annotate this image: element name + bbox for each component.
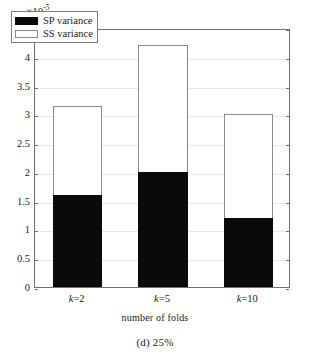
- figure-panel: ×10-5 variance 4.543.532.521.510.50 SP v…: [0, 0, 310, 356]
- axis-tick: [35, 260, 38, 261]
- axis-tick: [35, 174, 38, 175]
- legend-label-sp: SP variance: [43, 15, 92, 26]
- y-axis-tick-label: 3.5: [0, 82, 30, 92]
- y-axis-tick-label: 1: [0, 225, 30, 235]
- x-tick-variable: k: [69, 293, 74, 304]
- y-axis-title: variance: [0, 146, 1, 181]
- axis-tick: [35, 116, 38, 117]
- legend-swatch-sp-icon: [15, 17, 38, 25]
- bar-sp-variance: [53, 195, 102, 287]
- axis-tick: [286, 231, 289, 232]
- axis-tick: [286, 145, 289, 146]
- bar-sp-variance: [224, 218, 273, 287]
- axis-tick: [286, 30, 289, 31]
- bar-group: [138, 28, 187, 287]
- bar-sp-variance: [138, 172, 187, 287]
- x-axis-tick-label: k=5: [154, 293, 170, 304]
- axis-tick: [286, 260, 289, 261]
- legend-item-ss: SS variance: [15, 27, 93, 40]
- axis-tick: [286, 203, 289, 204]
- legend-swatch-ss-icon: [15, 30, 38, 38]
- axis-tick: [286, 174, 289, 175]
- axis-tick: [286, 88, 289, 89]
- y-axis-tick-label: 1.5: [0, 197, 30, 207]
- plot-area: [34, 29, 290, 288]
- axis-tick: [35, 59, 38, 60]
- axis-tick: [35, 145, 38, 146]
- axis-tick: [35, 231, 38, 232]
- axis-tick: [35, 203, 38, 204]
- axis-tick: [286, 59, 289, 60]
- legend-label-ss: SS variance: [43, 28, 93, 39]
- y-axis-tick-label: 0: [0, 283, 30, 293]
- axis-tick: [286, 289, 289, 290]
- axis-tick: [286, 116, 289, 117]
- y-axis-tick-label: 4: [0, 53, 30, 63]
- figure-caption: (d) 25%: [0, 336, 310, 348]
- x-axis-tick-label: k=2: [69, 293, 85, 304]
- bar-group: [224, 28, 273, 287]
- legend-item-sp: SP variance: [15, 14, 93, 27]
- axis-tick: [35, 88, 38, 89]
- x-axis-title: number of folds: [0, 312, 310, 323]
- x-tick-variable: k: [154, 293, 159, 304]
- y-axis-tick-label: 3: [0, 110, 30, 120]
- bar-group: [53, 28, 102, 287]
- legend: SP variance SS variance: [11, 11, 98, 43]
- y-axis-tick-label: 2.5: [0, 139, 30, 149]
- x-tick-variable: k: [237, 293, 242, 304]
- x-axis-tick-label: k=10: [237, 293, 258, 304]
- axis-tick: [35, 289, 38, 290]
- y-axis-tick-label: 2: [0, 168, 30, 178]
- y-axis-tick-label: 0.5: [0, 254, 30, 264]
